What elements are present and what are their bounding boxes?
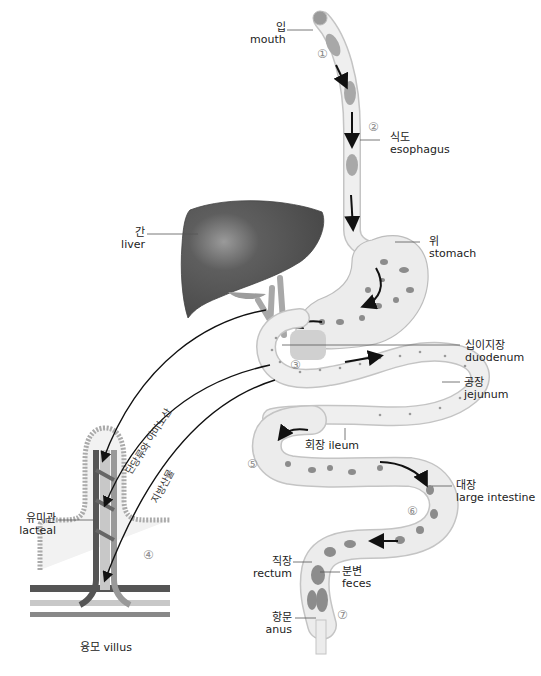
label-large-intestine: 대장 large intestine [456,480,535,504]
step-5: ⑤ [247,457,258,471]
label-liver: 간 liver [115,227,145,251]
absorption-arrows [103,310,275,580]
step-1: ① [317,47,328,61]
label-rectum-en: rectum [252,568,292,580]
step-3: ③ [290,358,301,372]
label-villus-en: villus [104,641,132,654]
digestive-diagram: 입 mouth 식도 esophagus 간 liver 위 stomach 십… [0,0,541,676]
label-anus-en: anus [256,624,292,636]
label-mouth: 입 mouth [250,22,286,46]
label-liver-en: liver [115,239,145,251]
label-large-intestine-en: large intestine [456,492,535,504]
label-stomach-en: stomach [429,248,476,260]
label-ileum: 회장 ileum [305,440,359,452]
label-villus-ko: 융모 [80,641,100,654]
label-esophagus-en: esophagus [390,144,450,156]
label-duodenum-en: duodenum [465,352,524,364]
label-jejunum: 공장 jejunum [464,377,509,401]
label-duodenum: 십이지장 duodenum [465,340,524,364]
label-anus: 항문 anus [256,612,292,636]
label-jejunum-en: jejunum [464,389,509,401]
label-mouth-en: mouth [250,34,286,46]
label-lacteal: 유미관 lacteal [14,513,56,537]
label-stomach: 위 stomach [429,236,476,260]
label-lacteal-en: lacteal [14,525,56,537]
label-feces: 분변 feces [342,566,371,590]
label-esophagus: 식도 esophagus [390,132,450,156]
label-rectum: 직장 rectum [252,556,292,580]
step-6: ⑥ [407,504,418,518]
large-intestine-organ [267,420,444,654]
step-4: ④ [143,548,154,562]
label-ileum-ko: 회장 [305,439,325,452]
label-feces-en: feces [342,578,371,590]
step-7: ⑦ [337,608,348,622]
step-2: ② [368,120,379,134]
label-ileum-en: ileum [329,439,360,452]
label-villus: 융모 villus [80,642,132,654]
